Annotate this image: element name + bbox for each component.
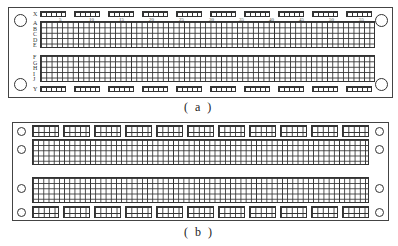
- bus-strip-block: [142, 11, 168, 17]
- terminal-strip-bottom: [32, 177, 369, 203]
- bus-strip-block: [94, 125, 121, 137]
- bus-strip-block: [125, 125, 152, 137]
- bus-strip-block: [94, 206, 121, 218]
- row-label: J: [33, 76, 35, 82]
- bus-strip-block: [32, 125, 59, 137]
- terminal-strip-bottom: [40, 55, 375, 82]
- bus-strip-block: [244, 86, 270, 92]
- bus-strip-block: [176, 86, 202, 92]
- mounting-hole-icon: [17, 184, 26, 193]
- bus-strip-block: [74, 11, 100, 17]
- bus-strip-block: [156, 206, 183, 218]
- bus-strip-block: [244, 11, 270, 17]
- mounting-hole-icon: [375, 145, 384, 154]
- terminal-strip-top: [40, 21, 375, 48]
- bus-strip-block: [342, 125, 369, 137]
- bus-strip-block: [312, 11, 338, 17]
- bus-strip-block: [63, 125, 90, 137]
- bus-strip-block: [74, 86, 100, 92]
- terminal-strip-top: [32, 139, 369, 165]
- bus-strip-block: [280, 125, 307, 137]
- bus-strip-block: [125, 206, 152, 218]
- bus-strip-block: [249, 206, 276, 218]
- bus-strip-block: [311, 206, 338, 218]
- caption-a: ( a ): [184, 100, 213, 115]
- bus-strip-block: [280, 206, 307, 218]
- bus-strip-block: [187, 125, 214, 137]
- mounting-hole-icon: [375, 14, 388, 27]
- bus-strip-block: [142, 86, 168, 92]
- mounting-hole-icon: [17, 127, 26, 136]
- bus-strip-block: [187, 206, 214, 218]
- row-label: E: [33, 42, 37, 48]
- mounting-hole-icon: [375, 78, 388, 91]
- bus-row-label-y: Y: [33, 86, 37, 92]
- breadboard-a: XY510152025303540455055ABCDEFGHIJ: [8, 7, 393, 98]
- mounting-hole-icon: [14, 14, 27, 27]
- mounting-hole-icon: [375, 127, 384, 136]
- bus-strip-block: [218, 125, 245, 137]
- bus-strip-block: [311, 125, 338, 137]
- bus-strip-block: [40, 86, 66, 92]
- mounting-hole-icon: [375, 184, 384, 193]
- mounting-hole-icon: [14, 78, 27, 91]
- bus-strip-block: [342, 206, 369, 218]
- caption-b: ( b ): [184, 225, 214, 240]
- mounting-hole-icon: [375, 208, 384, 217]
- bus-strip-block: [249, 125, 276, 137]
- bus-strip-block: [108, 86, 134, 92]
- breadboard-b: [12, 122, 389, 221]
- mounting-hole-icon: [17, 145, 26, 154]
- bus-strip-block: [156, 125, 183, 137]
- bus-strip-block: [346, 86, 372, 92]
- bus-strip-block: [40, 11, 66, 17]
- bus-strip-block: [32, 206, 59, 218]
- bus-strip-block: [278, 86, 304, 92]
- mounting-hole-icon: [17, 208, 26, 217]
- bus-strip-block: [210, 86, 236, 92]
- bus-strip-block: [312, 86, 338, 92]
- bus-strip-block: [218, 206, 245, 218]
- bus-strip-block: [63, 206, 90, 218]
- bus-row-label-x: X: [33, 11, 37, 17]
